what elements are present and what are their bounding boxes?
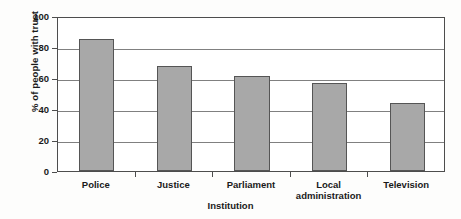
x-axis-category-label: Television [367,179,445,190]
x-axis-category-label: Justice [135,179,213,190]
plot-area [57,17,445,172]
x-axis-tick-mark [212,172,213,177]
x-axis-title: Institution [0,200,461,211]
x-axis-category-label-line: Parliament [212,179,290,190]
y-axis-tick-label: 100 [23,11,49,22]
y-axis-tick-label: 0 [23,166,49,177]
x-axis-category-label-line: Justice [135,179,213,190]
x-axis-tick-mark [135,172,136,177]
bar [312,83,347,171]
x-axis-tick-mark [367,172,368,177]
bar [79,39,114,171]
bar [234,76,269,171]
y-axis-tick-label: 80 [23,42,49,53]
x-axis-category-label-line: Television [367,179,445,190]
x-axis-category-label: Localadministration [290,179,368,201]
bar [157,66,192,171]
x-axis-category-label-line: Local [290,179,368,190]
y-axis-tick-label: 60 [23,73,49,84]
x-axis-category-label-line: Police [57,179,135,190]
y-axis-tick-label: 20 [23,135,49,146]
x-axis-tick-mark [290,172,291,177]
bar-chart: % of people with trust 020406080100 Poli… [0,0,461,219]
gridline [58,49,444,50]
x-axis-category-label: Police [57,179,135,190]
x-axis-category-label: Parliament [212,179,290,190]
y-axis-tick-label: 40 [23,104,49,115]
bar [390,103,425,171]
y-axis-tick-mark [52,172,57,173]
